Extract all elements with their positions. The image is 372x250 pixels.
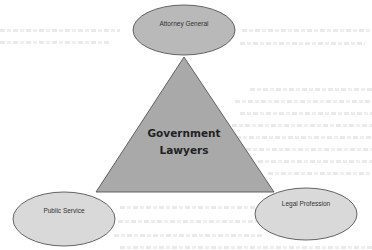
central-triangle xyxy=(96,57,274,192)
center-label-line1: Government xyxy=(147,127,220,139)
node-legal-profession xyxy=(255,188,357,240)
center-label-line2: Lawyers xyxy=(160,144,209,156)
node-public-service xyxy=(13,192,115,246)
node-attorney-general xyxy=(133,5,235,55)
government-lawyers-diagram: Attorney General Public Service Legal Pr… xyxy=(0,0,372,250)
label-legal-profession: Legal Profession xyxy=(282,200,331,208)
label-attorney-general: Attorney General xyxy=(159,20,209,28)
label-public-service: Public Service xyxy=(43,207,85,214)
